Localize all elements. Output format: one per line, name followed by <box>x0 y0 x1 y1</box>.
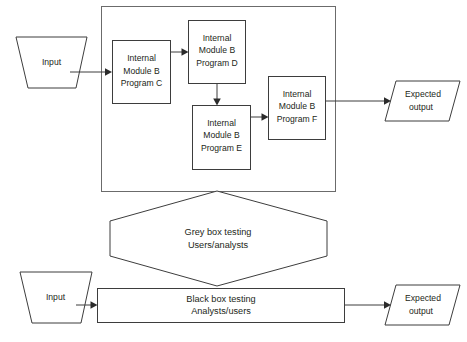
edge-input-to-module-c-arrowhead <box>105 68 112 76</box>
input-bottom-label: Input <box>46 292 66 302</box>
node-module-d: Internal Module B Program D <box>189 21 246 84</box>
diagram-canvas: Input Internal Module B Program C Intern… <box>0 0 467 342</box>
expected-output-bottom-line1: Expected <box>405 293 441 303</box>
flowchart-svg: Input Internal Module B Program C Intern… <box>0 0 467 342</box>
module-c-line2: Module B <box>123 66 160 76</box>
expected-output-top-line2: output <box>409 102 434 112</box>
node-module-e: Internal Module B Program E <box>193 106 251 170</box>
node-module-f: Internal Module B Program F <box>269 77 326 140</box>
node-module-c: Internal Module B Program C <box>113 41 171 104</box>
node-input-bottom: Input <box>20 272 92 323</box>
expected-output-bottom-line2: output <box>409 306 434 316</box>
expected-output-top-line1: Expected <box>405 89 441 99</box>
module-e-line3: Program E <box>201 143 242 153</box>
edge-black-box-to-expected-output <box>345 301 392 309</box>
node-input-top: Input <box>16 37 87 88</box>
module-d-line2: Module B <box>199 45 236 55</box>
grey-box-line2: Users/analysts <box>188 240 249 250</box>
node-expected-output-bottom: Expected output <box>385 285 460 325</box>
edge-module-d-to-module-e-arrowhead <box>213 99 221 106</box>
black-box-line1: Black box testing <box>186 294 255 304</box>
module-c-line3: Program C <box>121 78 163 88</box>
module-f-line2: Module B <box>279 101 316 111</box>
node-black-box-testing: Black box testing Analysts/users <box>98 289 345 323</box>
edge-module-d-to-module-e <box>213 84 221 106</box>
node-grey-box-testing: Grey box testing Users/analysts <box>110 191 327 286</box>
module-f-line3: Program F <box>277 114 318 124</box>
grey-box-hexagon-shape <box>110 191 327 286</box>
module-d-line3: Program D <box>196 58 238 68</box>
module-e-line1: Internal <box>207 118 236 128</box>
grey-box-line1: Grey box testing <box>185 227 252 237</box>
edge-module-e-to-module-f-arrowhead <box>262 113 269 121</box>
module-f-line1: Internal <box>283 89 312 99</box>
edge-module-c-to-module-d <box>171 48 189 56</box>
edge-module-e-to-module-f <box>251 113 269 121</box>
module-c-line1: Internal <box>127 53 156 63</box>
edge-input-bottom-to-black-box-arrowhead <box>91 301 98 309</box>
black-box-line2: Analysts/users <box>191 306 251 316</box>
module-e-line2: Module B <box>203 130 240 140</box>
module-d-line1: Internal <box>203 33 232 43</box>
node-expected-output-top: Expected output <box>385 81 460 121</box>
input-top-label: Input <box>42 57 62 67</box>
edge-module-c-to-module-d-arrowhead <box>182 48 189 56</box>
